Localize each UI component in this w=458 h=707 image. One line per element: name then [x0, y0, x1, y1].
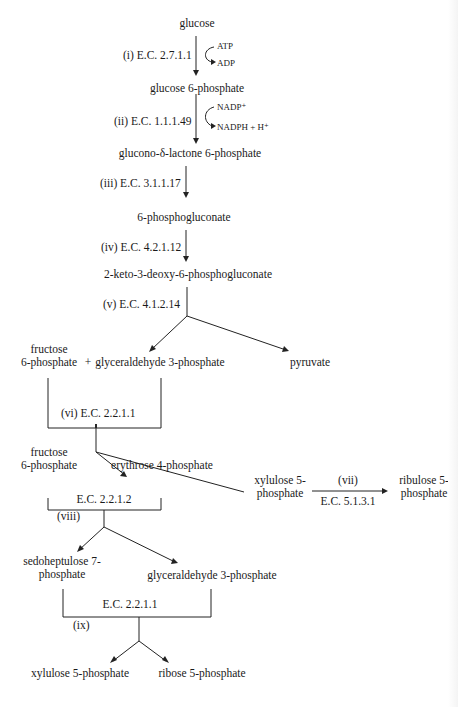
arrow-to-g3p-b: [104, 527, 175, 562]
cofactor-nadph: NADPH + H⁺: [217, 121, 269, 134]
cofactor-adp: ADP: [217, 57, 235, 70]
node-kdpg: 2-keto-3-deoxy-6-phosphogluconate: [104, 268, 272, 281]
arrowhead: [183, 192, 189, 198]
cofactor-atp: ATP: [217, 40, 233, 53]
enzyme-label-viii-ec: E.C. 2.2.1.2: [77, 493, 132, 506]
pathway-diagram: glucose glucose 6-phosphate glucono-δ-la…: [0, 0, 458, 707]
node-ribulose-5-phosphate-line2: phosphate: [401, 487, 448, 500]
node-sedoheptulose-7-phosphate-line2: phosphate: [39, 568, 86, 581]
node-pyruvate: pyruvate: [290, 356, 330, 369]
arrowhead: [110, 656, 117, 663]
node-glyceraldehyde-3-phosphate-a: glyceraldehyde 3-phosphate: [95, 356, 224, 369]
node-xylulose-5-phosphate-a-line2: phosphate: [257, 487, 304, 500]
enzyme-label-ix-ec: E.C. 2.2.1.1: [103, 598, 158, 611]
cofactor-curve-atp-adp: [205, 47, 214, 62]
arrowhead: [282, 346, 289, 352]
node-fructose-6-phosphate-a-line1: fructose: [30, 343, 67, 356]
enzyme-label-vi: (vi) E.C. 2.2.1.1: [61, 407, 135, 420]
enzyme-label-vii-number: (vii): [338, 474, 358, 487]
node-fructose-6-phosphate-b-line1: fructose: [30, 446, 67, 459]
arrowhead: [162, 656, 169, 663]
enzyme-label-iv: (iv) E.C. 4.2.1.12: [101, 241, 181, 254]
enzyme-label-vii-ec: E.C. 5.1.3.1: [321, 495, 376, 508]
arrowhead: [193, 138, 199, 144]
arrowhead: [382, 488, 388, 494]
arrowhead: [171, 558, 178, 564]
node-glyceraldehyde-3-phosphate-b: glyceraldehyde 3-phosphate: [147, 569, 276, 582]
node-sedoheptulose-7-phosphate-line1: sedoheptulose 7-: [23, 555, 101, 568]
enzyme-label-ii: (ii) E.C. 1.1.1.49: [114, 115, 192, 128]
arrowhead: [193, 70, 199, 76]
node-xylulose-5-phosphate-b: xylulose 5-phosphate: [31, 667, 129, 680]
enzyme-label-i: (i) E.C. 2.7.1.1: [123, 49, 192, 62]
enzyme-label-iii: (iii) E.C. 3.1.1.17: [100, 177, 181, 190]
node-6-phosphogluconate: 6-phosphogluconate: [137, 211, 230, 224]
node-glucose-6-phosphate: glucose 6-phosphate: [150, 82, 244, 95]
arrow-to-ribose: [139, 641, 166, 661]
enzyme-label-v: (v) E.C. 4.1.2.14: [103, 298, 180, 311]
arrow-to-xylulose-b: [113, 641, 139, 661]
node-fructose-6-phosphate-a-line2: 6-phosphate: [21, 356, 77, 369]
node-glucono-lactone-6-phosphate: glucono-δ-lactone 6-phosphate: [119, 147, 261, 160]
plus-sign: +: [85, 356, 92, 369]
arrowhead: [211, 59, 216, 65]
node-ribulose-5-phosphate-line1: ribulose 5-: [399, 474, 449, 487]
page-edge-shade: [448, 0, 458, 707]
cofactor-nadp: NADP⁺: [217, 101, 246, 114]
arrowhead: [211, 123, 216, 129]
enzyme-label-viii-number: (viii): [57, 510, 80, 523]
arrow-to-g3p: [152, 316, 187, 349]
enzyme-label-ix-number: (ix): [73, 619, 90, 632]
arrowhead: [183, 256, 189, 262]
arrow-to-pyruvate: [187, 316, 286, 350]
node-erythrose-4-phosphate: erythrose 4-phosphate: [111, 459, 213, 472]
node-fructose-6-phosphate-b-line2: 6-phosphate: [21, 459, 77, 472]
line-to-xylulose: [96, 452, 244, 492]
node-ribose-5-phosphate: ribose 5-phosphate: [158, 667, 245, 680]
arrow-to-sedoheptulose: [79, 527, 104, 550]
node-glucose: glucose: [179, 17, 214, 30]
cofactor-curve-nadp: [205, 107, 214, 126]
node-xylulose-5-phosphate-a-line1: xylulose 5-: [254, 474, 305, 487]
